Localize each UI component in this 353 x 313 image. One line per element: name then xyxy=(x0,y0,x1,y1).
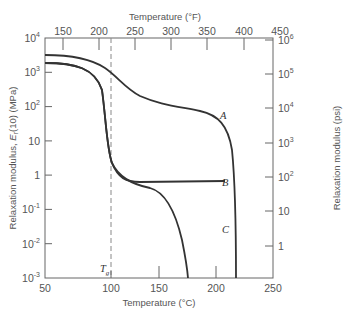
svg-text:150: 150 xyxy=(150,282,168,294)
svg-text:350: 350 xyxy=(198,25,216,37)
svg-text:106: 106 xyxy=(278,33,294,46)
svg-text:10-3: 10-3 xyxy=(22,271,40,284)
x2-tick-labels: 150 200 250 300 350 400 450 xyxy=(54,25,289,37)
y2-axis-label: Relaxation modulus (psi) xyxy=(331,106,342,211)
y2-tick-labels: 106 105 104 103 102 10 1 xyxy=(278,33,294,252)
x-tick-labels: 50 100 150 200 250 xyxy=(39,282,282,294)
curve-c-label: C xyxy=(222,224,230,235)
svg-text:105: 105 xyxy=(278,67,294,80)
y-ticks xyxy=(45,72,52,243)
svg-text:10-1: 10-1 xyxy=(22,202,40,215)
x-ticks xyxy=(111,266,216,278)
svg-text:50: 50 xyxy=(39,282,51,294)
y-tick-labels: 104 103 102 10 1 10-1 10-2 10-3 xyxy=(22,31,40,284)
curve-a xyxy=(45,55,236,278)
svg-text:10: 10 xyxy=(28,135,40,147)
svg-text:200: 200 xyxy=(90,25,108,37)
svg-text:10: 10 xyxy=(278,205,290,217)
svg-text:150: 150 xyxy=(54,25,72,37)
x2-ticks xyxy=(63,38,244,50)
svg-text:1: 1 xyxy=(278,240,284,252)
curve-b xyxy=(45,63,225,182)
curve-a-label: A xyxy=(219,110,227,121)
svg-text:300: 300 xyxy=(162,25,180,37)
plot-frame xyxy=(45,38,273,278)
svg-text:10-2: 10-2 xyxy=(22,237,40,250)
svg-text:250: 250 xyxy=(126,25,144,37)
svg-text:104: 104 xyxy=(278,101,294,114)
x2-axis-label: Temperature (°F) xyxy=(129,11,201,22)
chart: A B C Tg 50 100 150 200 250 Temperature … xyxy=(0,0,353,313)
svg-text:103: 103 xyxy=(24,65,40,78)
svg-text:104: 104 xyxy=(24,31,40,44)
svg-text:250: 250 xyxy=(264,282,282,294)
curve-c xyxy=(45,63,188,278)
svg-text:400: 400 xyxy=(235,25,253,37)
svg-text:1: 1 xyxy=(34,169,40,181)
y2-ticks xyxy=(265,40,273,246)
y-axis-label: Relaxation modulus, Er(10) (MPa) xyxy=(7,87,19,230)
svg-text:102: 102 xyxy=(278,170,294,183)
tg-label: Tg xyxy=(100,263,110,277)
svg-text:102: 102 xyxy=(24,99,40,112)
svg-text:103: 103 xyxy=(278,136,294,149)
x-axis-label: Temperature (°C) xyxy=(123,297,196,308)
svg-text:200: 200 xyxy=(207,282,225,294)
svg-text:100: 100 xyxy=(102,282,120,294)
curve-b-label: B xyxy=(222,177,229,188)
